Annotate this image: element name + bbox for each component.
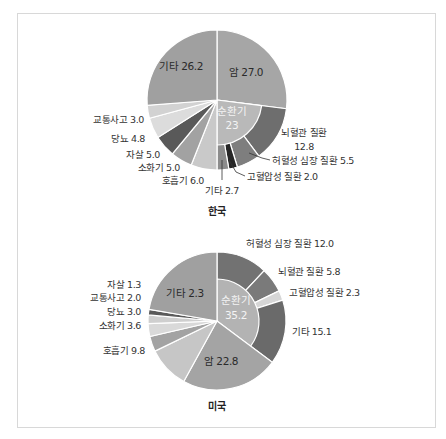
usa-label-circ-other: 기타 15.1 xyxy=(292,326,332,337)
korea-label-circ-other: 기타 2.7 xyxy=(205,185,239,196)
korea-label-hypertensive: 고혈압성 질환 2.0 xyxy=(247,171,318,182)
usa-label-other: 기타 2.3 xyxy=(166,287,204,299)
usa-label-cancer: 암 22.8 xyxy=(204,355,238,367)
usa-label-suicide: 자살 1.3 xyxy=(107,279,141,290)
usa-label-digestive: 소화기 3.6 xyxy=(99,320,142,331)
korea-label-other: 기타 26.2 xyxy=(159,60,203,72)
usa-title: 미국 xyxy=(208,400,226,412)
korea-label-diabetes: 당뇨 4.8 xyxy=(111,133,145,144)
korea-title: 한국 xyxy=(208,206,226,217)
korea-label-respiratory: 호흡기 6.0 xyxy=(162,175,205,186)
korea-label-circ-value: 23 xyxy=(226,119,239,131)
pie-charts: 기타 26.2 암 27.0 순환기 23 뇌혈관 질환 12.8 허혈성 심장… xyxy=(0,0,446,439)
pie-korea xyxy=(147,30,287,170)
korea-label-suicide: 자살 5.0 xyxy=(126,149,160,160)
korea-label-ischemic: 허혈성 심장 질환 5.5 xyxy=(272,155,354,166)
usa-label-respiratory: 호흡기 9.8 xyxy=(103,345,146,356)
usa-label-hypertensive: 고혈압성 질환 2.3 xyxy=(289,287,360,298)
usa-label-cerebro: 뇌혈관 질환 5.8 xyxy=(278,266,341,277)
usa-label-ischemic: 허혈성 심장 질환 12.0 xyxy=(246,238,334,249)
korea-label-circ: 순환기 xyxy=(217,105,246,117)
korea-label-digestive: 소화기 5.0 xyxy=(138,162,181,173)
usa-label-circ-value: 35.2 xyxy=(225,309,247,321)
usa-label-diabetes: 당뇨 3.0 xyxy=(107,306,141,317)
pie-usa xyxy=(148,252,286,390)
korea-label-cerebro: 뇌혈관 질환 xyxy=(281,127,327,138)
usa-label-traffic: 교통사고 2.0 xyxy=(90,292,141,303)
usa-label-circ: 순환기 xyxy=(221,294,250,306)
korea-label-cancer: 암 27.0 xyxy=(229,66,263,78)
korea-label-traffic: 교통사고 3.0 xyxy=(93,114,144,125)
korea-label-cerebro-value: 12.8 xyxy=(294,141,314,152)
